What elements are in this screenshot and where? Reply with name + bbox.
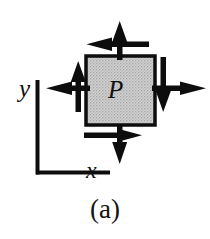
left-shear-arrow-head xyxy=(71,61,86,82)
top-normal-arrow xyxy=(112,21,127,60)
right-shear-arrow xyxy=(156,57,171,112)
bottom-shear-arrow-head xyxy=(117,129,142,143)
left-normal-arrow-head xyxy=(46,82,72,96)
right-normal-arrow-head xyxy=(180,82,206,96)
element-label-P: P xyxy=(108,77,123,102)
stress-element-figure: P y x (a) xyxy=(0,0,210,239)
x-axis-label: x xyxy=(86,158,97,182)
left-shear-arrow-shaft xyxy=(76,80,82,112)
right-shear-arrow-head xyxy=(156,91,171,112)
y-axis-label: y xyxy=(19,76,30,101)
figure-caption: (a) xyxy=(0,196,210,223)
bottom-shear-arrow xyxy=(84,129,142,143)
left-normal-arrow xyxy=(46,82,90,96)
top-normal-arrow-head xyxy=(112,21,127,42)
bottom-normal-arrow-head xyxy=(112,142,127,164)
top-shear-arrow-head xyxy=(87,38,113,52)
